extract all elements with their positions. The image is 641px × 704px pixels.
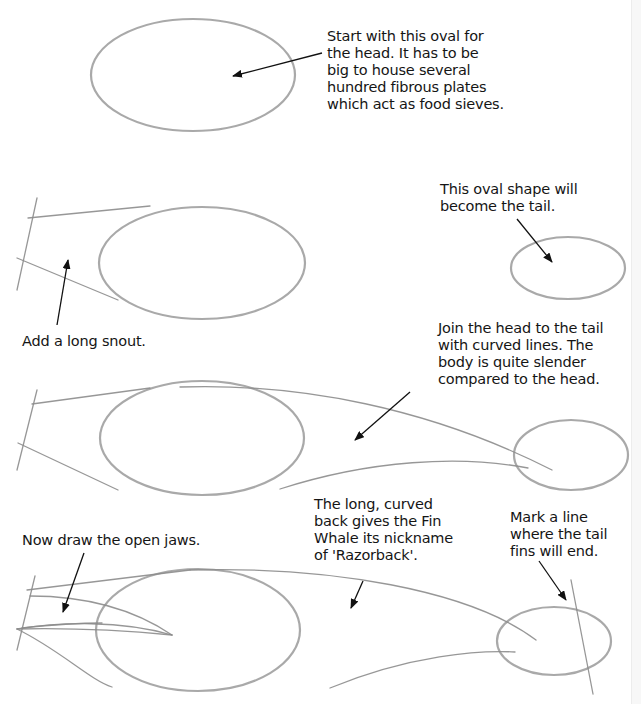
step3-caption: Join the head to the tail with curved li… (438, 320, 603, 388)
step2-tail-caption: This oval shape will become the tail. (440, 181, 578, 215)
step4-back-caption: The long, curved back gives the Fin Whal… (314, 496, 453, 564)
step4-jaws-caption: Now draw the open jaws. (22, 532, 200, 549)
step4-fins-caption: Mark a line where the tail fins will end… (510, 509, 607, 560)
step4-open-jaws (17, 596, 172, 635)
step2-snout-arrow-icon (57, 260, 68, 325)
step1-arrow-icon (233, 53, 322, 76)
step3-arrow-icon (355, 392, 410, 440)
step2-tail-oval (511, 237, 625, 299)
step2-snout-sketch (17, 198, 305, 319)
step1-caption: Start with this oval for the head. It ha… (327, 28, 504, 113)
step3-body-sketch (17, 381, 628, 495)
step4-whale-sketch (17, 569, 611, 694)
step2-tail-arrow-icon (517, 219, 552, 262)
step4-jaws-arrow-icon (63, 553, 84, 612)
step2-snout-caption: Add a long snout. (22, 333, 146, 350)
step1-head-oval (91, 19, 295, 131)
step4-fins-arrow-icon (539, 561, 566, 600)
step4-back-arrow-icon (351, 581, 363, 608)
